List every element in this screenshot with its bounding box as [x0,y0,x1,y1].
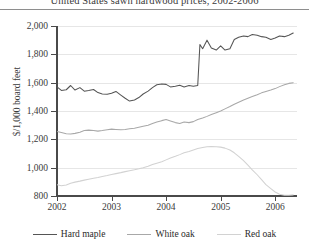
legend-line-swatch-icon [127,234,151,236]
y-axis-tick [51,196,56,197]
legend-line-swatch-icon [33,234,57,236]
series-lines [57,26,297,196]
y-axis-tick [51,139,56,140]
x-axis-tick-label: 2002 [37,202,77,213]
title-divider [0,9,309,10]
legend-label: Red oak [245,229,276,240]
x-axis-tick [57,197,58,201]
series-line-white-oak [57,83,293,134]
x-axis-tick-label: 2004 [146,202,186,213]
x-axis-tick-label: 2006 [255,202,295,213]
chart-figure: United States sawn hardwood prices, 2002… [0,0,309,250]
legend-item-red-oak[interactable]: Red oak [217,229,276,240]
legend-line-swatch-icon [217,234,241,236]
y-axis-tick [51,83,56,84]
y-axis-tick-label: 1,600 [4,78,48,88]
y-axis-tick-label: 800 [4,191,48,201]
x-axis-tick-label: 2005 [201,202,241,213]
y-axis-tick-label: 1,000 [4,163,48,173]
series-line-hard-maple [57,33,293,101]
page-title: United States sawn hardwood prices, 2002… [0,0,309,7]
y-axis-tick [51,111,56,112]
legend-item-white-oak[interactable]: White oak [127,229,194,240]
y-axis-tick [51,54,56,55]
legend-label: White oak [155,229,194,240]
series-line-red-oak [57,146,293,195]
y-axis-tick-label: 2,000 [4,21,48,31]
legend-label: Hard maple [61,229,106,240]
legend-item-hard-maple[interactable]: Hard maple [33,229,106,240]
y-axis-tick [51,26,56,27]
x-axis-tick-label: 2003 [92,202,132,213]
y-axis-tick-label: 1,400 [4,106,48,116]
x-axis-tick [112,197,113,201]
y-axis-tick-label: 1,800 [4,49,48,59]
y-axis-tick [51,168,56,169]
y-axis-tick-label: 1,200 [4,134,48,144]
x-axis-tick [166,197,167,201]
x-axis-tick [221,197,222,201]
x-axis-tick [275,197,276,201]
chart-legend: Hard mapleWhite oakRed oak [0,229,309,240]
